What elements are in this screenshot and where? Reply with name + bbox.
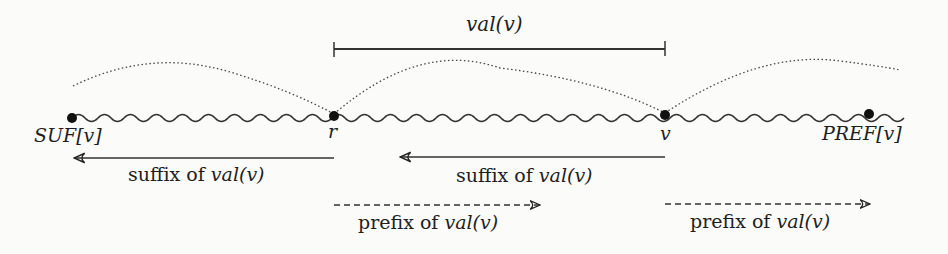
wavy-string-line [72, 115, 904, 122]
suffix-label-1-text: suffix of [128, 163, 211, 185]
arc-left [73, 63, 334, 114]
node-pref-dot [864, 109, 874, 119]
suffix-label-1-math: val(v) [211, 163, 265, 185]
suffix-label-1: suffix of val(v) [128, 163, 265, 185]
prefix-label-2-text: prefix of [690, 210, 776, 232]
suffix-label-2: suffix of val(v) [456, 164, 593, 186]
node-pref-label: PREF[v] [822, 122, 902, 144]
node-suf-label: SUF[v] [34, 124, 102, 146]
prefix-label-2: prefix of val(v) [690, 210, 830, 232]
prefix-label-1: prefix of val(v) [358, 211, 498, 233]
node-r-label: r [328, 120, 337, 142]
prefix-label-1-text: prefix of [358, 211, 444, 233]
val-interval-label: val(v) [466, 12, 523, 36]
val-interval-bar [334, 41, 665, 57]
node-suf-dot [67, 113, 77, 123]
node-v-dot [660, 110, 670, 120]
arc-middle [334, 60, 665, 114]
prefix-label-2-math: val(v) [776, 210, 830, 232]
suffix-label-2-math: val(v) [539, 164, 593, 186]
prefix-label-1-math: val(v) [444, 211, 498, 233]
suffix-label-2-text: suffix of [456, 164, 539, 186]
node-v-label: v [660, 122, 671, 144]
dotted-arcs [73, 59, 900, 114]
arc-right [665, 59, 900, 113]
